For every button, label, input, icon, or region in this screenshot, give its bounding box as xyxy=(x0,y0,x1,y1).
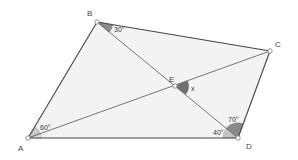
label-a: A xyxy=(18,144,24,153)
label-c: C xyxy=(275,40,281,49)
label-e: E xyxy=(169,75,174,84)
point-c[interactable] xyxy=(268,49,272,53)
angle-d-lower-label: 40° xyxy=(213,129,224,136)
point-a[interactable] xyxy=(26,136,30,140)
angle-a-label: 60° xyxy=(40,124,51,131)
angle-b-label: 30° xyxy=(114,26,125,33)
geometry-diagram: A B C D E 60° 30° 70° 40° x xyxy=(0,0,298,160)
point-d[interactable] xyxy=(236,136,240,140)
point-e[interactable] xyxy=(173,84,177,88)
label-b: B xyxy=(87,9,92,18)
angle-e-label: x xyxy=(191,85,195,92)
label-d: D xyxy=(246,142,252,151)
angle-d-upper-label: 70° xyxy=(228,116,239,123)
point-b[interactable] xyxy=(95,20,99,24)
